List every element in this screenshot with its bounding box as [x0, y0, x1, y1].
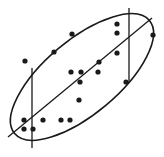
data-point	[123, 79, 128, 84]
data-point	[95, 69, 100, 74]
data-point	[114, 21, 119, 26]
data-point	[68, 69, 73, 74]
data-point	[21, 126, 26, 131]
data-point	[114, 50, 119, 55]
data-point	[114, 30, 119, 35]
data-point	[21, 117, 26, 122]
data-point	[67, 117, 72, 122]
data-point	[22, 58, 27, 63]
data-point	[69, 31, 74, 36]
data-point	[77, 79, 82, 84]
scatter-plot-with-ellipse	[0, 0, 164, 157]
confidence-ellipse	[0, 0, 164, 157]
data-point	[78, 69, 83, 74]
data-point	[51, 49, 56, 54]
data-point	[30, 126, 35, 131]
data-point	[58, 117, 63, 122]
vertical-lines	[32, 8, 129, 148]
data-point	[150, 32, 155, 37]
data-point	[76, 97, 81, 102]
data-point	[40, 117, 45, 122]
data-point	[96, 59, 101, 64]
data-points	[21, 21, 155, 131]
